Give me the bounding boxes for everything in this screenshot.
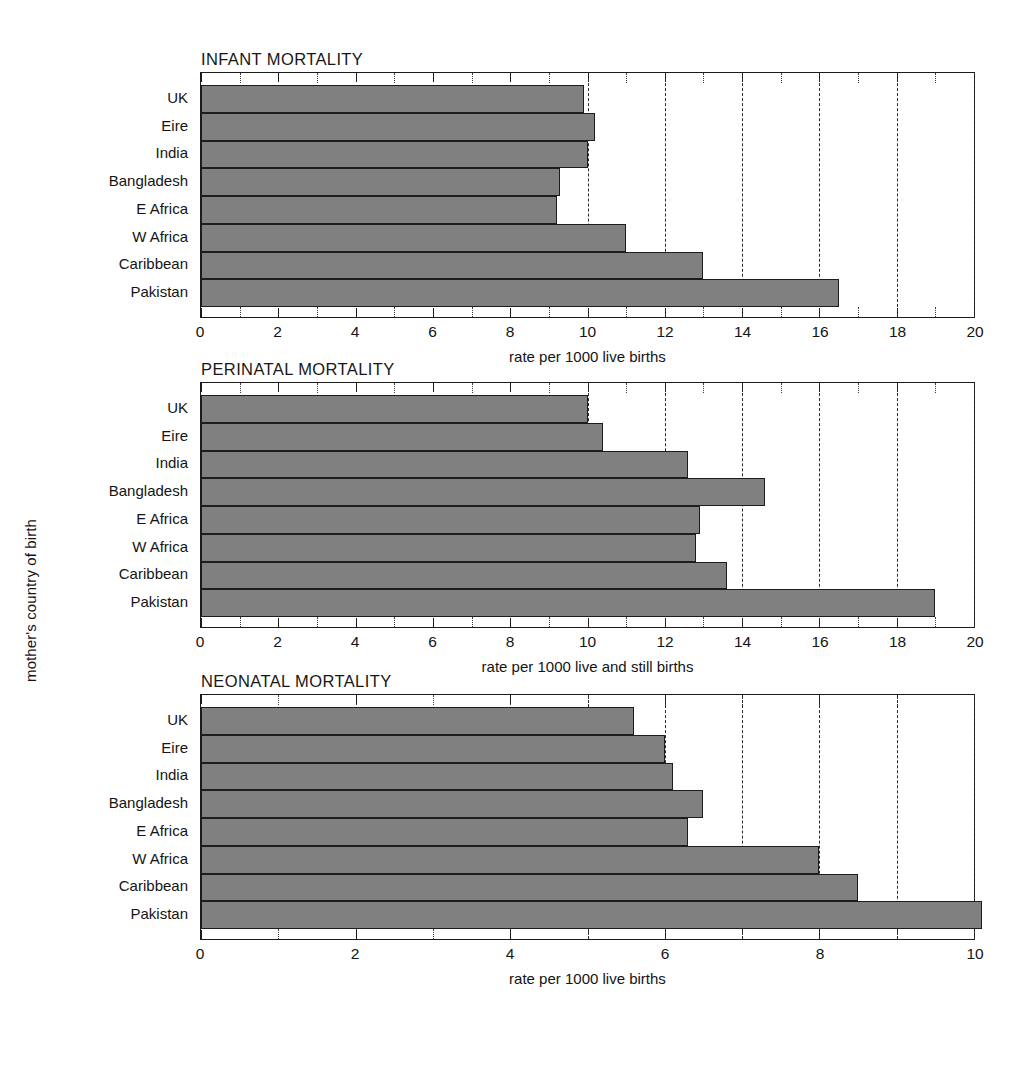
minor-tick — [433, 929, 434, 939]
x-tick-label: 4 — [351, 634, 360, 650]
minor-tick — [394, 307, 395, 317]
category-label-e-africa: E Africa — [136, 511, 188, 526]
bar-bangladesh — [201, 790, 703, 818]
minor-tick — [317, 617, 318, 627]
minor-tick — [472, 73, 473, 83]
gridline — [974, 73, 975, 317]
minor-tick — [549, 383, 550, 393]
bar-series-perinatal-mortality — [201, 395, 974, 615]
minor-tick — [935, 383, 936, 393]
minor-tick — [240, 307, 241, 317]
x-axis-label-neonatal-mortality: rate per 1000 live births — [200, 970, 975, 987]
major-tick — [510, 73, 511, 82]
major-tick — [201, 618, 202, 627]
minor-tick — [433, 695, 434, 705]
major-tick — [433, 308, 434, 317]
major-tick — [356, 383, 357, 392]
bar-w-africa — [201, 224, 626, 252]
bar-row — [201, 85, 974, 113]
bar-india — [201, 763, 673, 791]
category-labels-infant-mortality: UKEireIndiaBangladeshE AfricaW AfricaCar… — [0, 72, 194, 318]
bar-row — [201, 395, 974, 423]
major-tick — [510, 383, 511, 392]
bar-row — [201, 534, 974, 562]
bar-row — [201, 707, 974, 735]
major-tick — [356, 618, 357, 627]
major-tick — [201, 930, 202, 939]
major-tick — [510, 930, 511, 939]
x-tick-label: 6 — [428, 634, 437, 650]
x-tick-label: 8 — [816, 946, 825, 962]
category-label-caribbean: Caribbean — [119, 878, 188, 893]
x-tick-label: 10 — [579, 324, 596, 340]
minor-tick — [703, 73, 704, 83]
minor-tick — [472, 307, 473, 317]
bar-e-africa — [201, 818, 688, 846]
minor-tick — [858, 307, 859, 317]
chart-title-perinatal-mortality: PERINATAL MORTALITY — [201, 360, 395, 379]
x-tick-label: 10 — [579, 634, 596, 650]
bar-row — [201, 735, 974, 763]
bar-pakistan — [201, 279, 839, 307]
bar-row — [201, 252, 974, 280]
bar-row — [201, 141, 974, 169]
plot-area-neonatal-mortality — [200, 694, 975, 940]
x-tick-label: 6 — [661, 946, 670, 962]
category-label-eire: Eire — [161, 740, 188, 755]
bar-row — [201, 279, 974, 307]
minor-tick — [549, 73, 550, 83]
minor-tick — [781, 383, 782, 393]
bar-series-infant-mortality — [201, 85, 974, 305]
bar-row — [201, 589, 974, 617]
bar-row — [201, 763, 974, 791]
bar-pakistan — [201, 901, 982, 929]
category-label-w-africa: W Africa — [132, 229, 188, 244]
minor-tick — [394, 383, 395, 393]
bar-row — [201, 901, 974, 929]
bar-pakistan — [201, 589, 935, 617]
minor-tick — [278, 695, 279, 705]
major-tick — [201, 383, 202, 392]
x-tick-label: 12 — [656, 634, 673, 650]
minor-tick — [394, 73, 395, 83]
bar-uk — [201, 395, 588, 423]
minor-tick — [858, 383, 859, 393]
bar-india — [201, 451, 688, 479]
category-label-pakistan: Pakistan — [130, 594, 188, 609]
bar-uk — [201, 707, 634, 735]
bar-bangladesh — [201, 168, 560, 196]
bar-w-africa — [201, 534, 696, 562]
gridline — [974, 383, 975, 627]
bar-caribbean — [201, 562, 727, 590]
category-label-bangladesh: Bangladesh — [109, 795, 188, 810]
minor-tick — [394, 617, 395, 627]
x-tick-label: 10 — [966, 946, 983, 962]
minor-tick — [549, 307, 550, 317]
category-label-uk: UK — [167, 400, 188, 415]
category-label-caribbean: Caribbean — [119, 256, 188, 271]
minor-tick — [781, 307, 782, 317]
x-tick-label: 20 — [966, 324, 983, 340]
category-label-india: India — [155, 145, 188, 160]
minor-tick — [626, 73, 627, 83]
x-tick-label: 4 — [351, 324, 360, 340]
x-tick-label: 2 — [273, 634, 282, 650]
category-label-e-africa: E Africa — [136, 201, 188, 216]
major-tick — [278, 383, 279, 392]
minor-tick — [626, 617, 627, 627]
category-label-india: India — [155, 455, 188, 470]
bar-caribbean — [201, 874, 858, 902]
minor-tick — [317, 307, 318, 317]
bar-row — [201, 846, 974, 874]
category-label-w-africa: W Africa — [132, 539, 188, 554]
major-tick — [356, 930, 357, 939]
chart-title-neonatal-mortality: NEONATAL MORTALITY — [201, 672, 392, 691]
major-tick — [510, 618, 511, 627]
category-label-bangladesh: Bangladesh — [109, 483, 188, 498]
category-label-india: India — [155, 767, 188, 782]
bar-eire — [201, 735, 665, 763]
category-label-e-africa: E Africa — [136, 823, 188, 838]
minor-tick — [240, 617, 241, 627]
minor-tick — [703, 307, 704, 317]
x-tick-label: 16 — [811, 634, 828, 650]
